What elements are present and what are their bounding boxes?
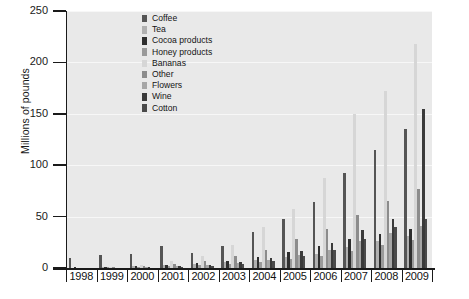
legend-swatch-icon [142,26,147,34]
x-axis-label-2009: 2009 [402,270,433,282]
x-axis-label-2003: 2003 [219,270,250,282]
legend-swatch-icon [142,71,147,79]
gridline [67,11,432,12]
legend-swatch-icon [142,82,147,90]
gridline [67,62,432,63]
legend-item-bananas: Bananas [142,58,212,69]
y-axis-tick-label: 150 [0,107,48,119]
y-axis-tick [53,113,66,115]
legend-item-wine: Wine [142,91,212,102]
legend-label: Coffee [152,13,177,24]
bar-cotton-2006 [333,250,336,269]
y-axis-tick-label: 250 [0,4,48,16]
legend-item-flowers: Flowers [142,80,212,91]
y-axis-tick-label: 200 [0,55,48,67]
legend-item-other: Other [142,69,212,80]
bar-coffee-1998 [69,258,72,268]
bar-cotton-2009 [425,219,428,268]
x-axis-label-2002: 2002 [188,270,219,282]
y-axis-tick [53,62,66,64]
x-axis-label-2008: 2008 [371,270,402,282]
legend-swatch-icon [142,93,147,101]
legend-swatch-icon [142,60,147,68]
y-axis-tick [53,164,66,166]
legend-label: Wine [152,91,172,102]
bar-coffee-1999 [99,255,102,268]
legend-swatch-icon [142,15,147,23]
x-axis-label-2001: 2001 [158,270,189,282]
bar-cotton-2005 [303,256,306,268]
gridline [67,114,432,115]
y-axis-tick [53,10,66,12]
legend-label: Flowers [152,80,182,91]
legend-label: Honey products [152,47,212,58]
x-axis-label-2000: 2000 [127,270,158,282]
legend-item-honey-products: Honey products [142,47,212,58]
y-axis-tick-label: 100 [0,158,48,170]
legend-label: Bananas [152,58,186,69]
x-axis-label-1998: 1998 [66,270,97,282]
gridline [67,165,432,166]
top-margin [0,0,469,6]
legend-item-cocoa-products: Cocoa products [142,35,212,46]
gridline [67,217,432,218]
y-axis-tick [53,216,66,218]
y-axis-tick-label: 50 [0,210,48,222]
bar-cotton-2004 [272,261,275,268]
legend-label: Cotton [152,103,177,114]
legend-swatch-icon [142,37,147,45]
legend-swatch-icon [142,104,147,112]
x-axis-separator [432,269,433,282]
chart-legend: CoffeeTeaCocoa productsHoney productsBan… [142,13,212,114]
legend-label: Other [152,69,174,80]
y-axis-tick [53,267,66,269]
legend-item-tea: Tea [142,24,212,35]
bar-cotton-2007 [364,239,367,268]
x-axis-label-2005: 2005 [280,270,311,282]
x-axis-label-1999: 1999 [97,270,128,282]
x-axis-label-2004: 2004 [249,270,280,282]
legend-swatch-icon [142,48,147,56]
legend-item-cotton: Cotton [142,103,212,114]
bar-cotton-2008 [394,227,397,268]
y-axis-tick-label: 0 [0,261,48,273]
x-axis-label-2007: 2007 [341,270,372,282]
chart-figure: Millions of pounds 050100150200250 19981… [0,0,469,299]
legend-label: Cocoa products [152,35,212,46]
legend-item-coffee: Coffee [142,13,212,24]
plot-area [66,11,432,268]
x-axis-label-2006: 2006 [310,270,341,282]
legend-label: Tea [152,24,166,35]
